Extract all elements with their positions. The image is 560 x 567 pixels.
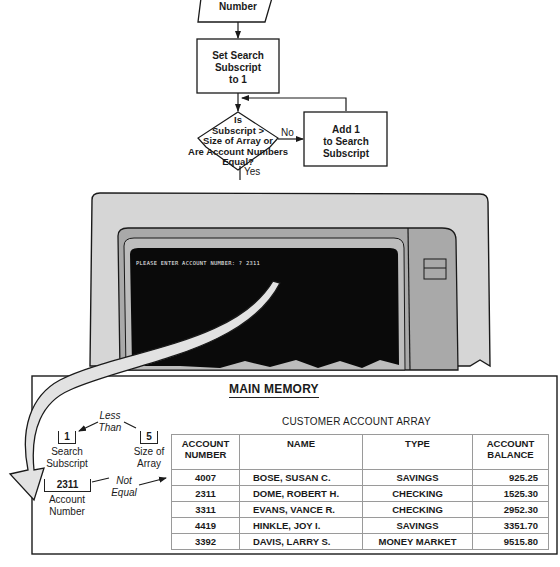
add-step-line: to Search: [305, 136, 387, 148]
set-step-line: to 1: [198, 74, 278, 86]
decision-line: Size of Array or: [183, 136, 293, 147]
table-row: 3392 DAVIS, LARRY S. MONEY MARKET 9515.8…: [172, 534, 549, 550]
size-of-array-line: Size of: [126, 446, 172, 458]
balance-cell: 1525.30: [473, 486, 549, 502]
customer-account-table: ACCOUNT NUMBER NAME TYPE ACCOUNT BALANCE…: [171, 434, 549, 550]
account-number-cell: 2311: [172, 486, 240, 502]
input-step-label: Number: [205, 1, 271, 13]
name-cell: DAVIS, LARRY S.: [240, 534, 363, 550]
account-number-cell: 4419: [172, 518, 240, 534]
search-subscript-line: Search: [40, 446, 94, 458]
header-line: TYPE: [363, 438, 472, 449]
type-cell: CHECKING: [363, 502, 473, 518]
table-row: 2311 DOME, ROBERT H. CHECKING 1525.30: [172, 486, 549, 502]
name-cell: DOME, ROBERT H.: [240, 486, 363, 502]
table-header-row: ACCOUNT NUMBER NAME TYPE ACCOUNT BALANCE: [172, 435, 549, 470]
name-cell: BOSE, SUSAN C.: [240, 470, 363, 486]
column-header: ACCOUNT BALANCE: [473, 435, 549, 470]
set-subscript-label: Set Search Subscript to 1: [198, 50, 278, 86]
size-of-array-value: 5: [140, 431, 158, 444]
account-number-cell: 3311: [172, 502, 240, 518]
less-than-label: Less Than: [92, 410, 128, 434]
account-number-line: Number: [40, 506, 94, 518]
header-line: ACCOUNT: [473, 438, 548, 449]
table-row: 3311 EVANS, VANCE R. CHECKING 2952.30: [172, 502, 549, 518]
header-line: NAME: [240, 438, 362, 449]
table-row: 4419 HINKLE, JOY I. SAVINGS 3351.70: [172, 518, 549, 534]
header-line: ACCOUNT: [172, 438, 239, 449]
name-cell: HINKLE, JOY I.: [240, 518, 363, 534]
balance-cell: 2952.30: [473, 502, 549, 518]
column-header: TYPE: [363, 435, 473, 470]
monitor-panel-button: [424, 259, 446, 279]
account-number-value: 2311: [44, 479, 91, 492]
add-step-line: Subscript: [305, 148, 387, 160]
balance-cell: 9515.80: [473, 534, 549, 550]
type-cell: SAVINGS: [363, 518, 473, 534]
account-number-line: Account: [40, 494, 94, 506]
terminal-prompt: PLEASE ENTER ACCOUNT NUMBER: ? 2311: [136, 260, 260, 266]
set-step-line: Set Search: [198, 50, 278, 62]
decision-line: Equal?: [183, 157, 293, 168]
not-equal-line: Not: [108, 475, 140, 487]
size-of-array-label: Size of Array: [126, 446, 172, 470]
account-number-cell: 4007: [172, 470, 240, 486]
column-header: ACCOUNT NUMBER: [172, 435, 240, 470]
balance-cell: 3351.70: [473, 518, 549, 534]
account-number-cell: 3392: [172, 534, 240, 550]
header-line: BALANCE: [473, 449, 548, 460]
less-than-line: Less: [92, 410, 128, 422]
decision-line: Is: [183, 115, 293, 126]
header-line: NUMBER: [172, 449, 239, 460]
account-number-label: Account Number: [40, 494, 94, 518]
add-step-line: Add 1: [305, 124, 387, 136]
column-header: NAME: [240, 435, 363, 470]
set-step-line: Subscript: [198, 62, 278, 74]
not-equal-line: Equal: [108, 487, 140, 499]
type-cell: MONEY MARKET: [363, 534, 473, 550]
size-of-array-line: Array: [126, 458, 172, 470]
type-cell: CHECKING: [363, 486, 473, 502]
no-label: No: [281, 127, 294, 138]
yes-label: Yes: [244, 166, 260, 177]
add-one-label: Add 1 to Search Subscript: [305, 124, 387, 160]
main-memory-title: MAIN MEMORY: [229, 382, 319, 398]
not-equal-label: Not Equal: [108, 475, 140, 499]
balance-cell: 925.25: [473, 470, 549, 486]
less-than-line: Than: [92, 422, 128, 434]
search-subscript-value: 1: [58, 431, 76, 444]
type-cell: SAVINGS: [363, 470, 473, 486]
search-subscript-label: Search Subscript: [40, 446, 94, 470]
name-cell: EVANS, VANCE R.: [240, 502, 363, 518]
table-row: 4007 BOSE, SUSAN C. SAVINGS 925.25: [172, 470, 549, 486]
search-subscript-line: Subscript: [40, 458, 94, 470]
array-title: CUSTOMER ACCOUNT ARRAY: [282, 416, 431, 427]
decision-label: Is Subscript > Size of Array or Are Acco…: [183, 115, 293, 168]
